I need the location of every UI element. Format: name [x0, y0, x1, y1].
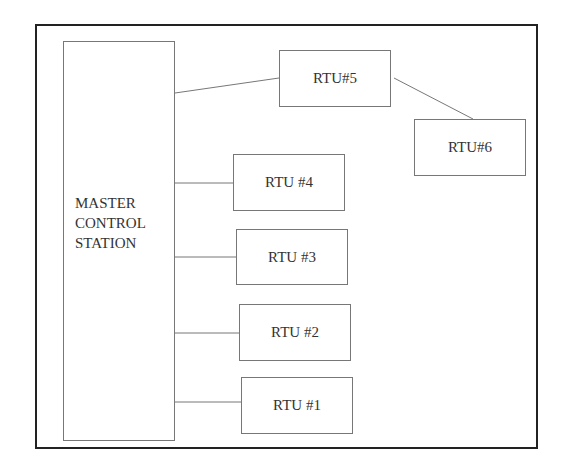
rtu-6-label: RTU#6	[448, 139, 492, 156]
rtu-5-box: RTU#5	[279, 50, 391, 107]
rtu-5-label: RTU#5	[313, 70, 357, 87]
rtu-2-label: RTU #2	[271, 324, 319, 341]
rtu-2-box: RTU #2	[239, 304, 351, 361]
master-control-station: MASTER CONTROL STATION	[63, 41, 175, 441]
rtu-3-box: RTU #3	[236, 229, 348, 285]
rtu-4-label: RTU #4	[265, 174, 313, 191]
link-rtu5-rtu6	[394, 78, 473, 119]
rtu-1-label: RTU #1	[273, 397, 321, 414]
rtu-6-box: RTU#6	[414, 119, 526, 176]
master-label: MASTER CONTROL STATION	[75, 193, 146, 253]
rtu-4-box: RTU #4	[233, 154, 345, 211]
rtu-3-label: RTU #3	[268, 249, 316, 266]
link-master-rtu5	[175, 78, 279, 93]
rtu-1-box: RTU #1	[241, 377, 353, 434]
